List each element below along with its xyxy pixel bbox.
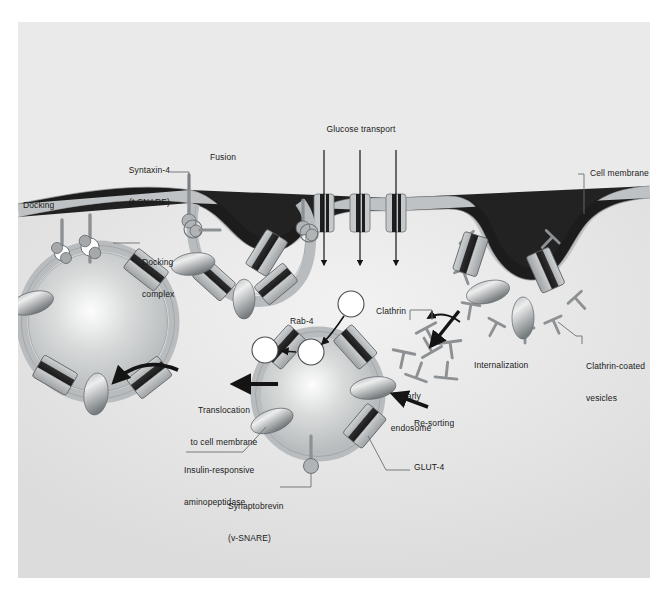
label-glut4: GLUT-4	[414, 462, 444, 473]
label-internalization: Internalization	[474, 360, 528, 371]
label-synaptobrevin-line1: Synaptobrevin	[228, 501, 284, 512]
white-vesicle	[338, 291, 364, 317]
label-syntaxin4-line1: Syntaxin-4	[88, 165, 170, 176]
rab4-arrow-2	[282, 351, 296, 352]
label-irap-line1: Insulin-responsive	[184, 465, 254, 476]
cell-trafficking-diagram	[18, 22, 650, 578]
label-early-endosome: Early endosome	[380, 370, 442, 454]
label-docking-complex: Docking complex	[142, 236, 174, 320]
white-vesicle	[252, 337, 278, 363]
irap-ellipse	[233, 279, 255, 319]
label-docking-complex-line1: Docking	[142, 257, 174, 268]
white-vesicle	[298, 339, 324, 365]
label-glucose-transport: Glucose transport	[290, 124, 432, 135]
label-synaptobrevin-line2: (v-SNARE)	[228, 533, 284, 544]
label-clathrin: Clathrin	[376, 306, 406, 317]
label-early-endosome-line1: Early	[380, 391, 442, 402]
label-clathrin-vesicles-line1: Clathrin-coated	[586, 361, 645, 372]
label-clathrin-vesicles-line2: vesicles	[586, 393, 645, 404]
label-translocation-line1: Translocation	[176, 405, 272, 416]
label-docking-complex-line2: complex	[142, 289, 174, 300]
label-docking: Docking	[23, 200, 54, 211]
label-fusion: Fusion	[210, 152, 236, 163]
irap-ellipse	[512, 297, 534, 339]
label-rab4: Rab-4	[290, 316, 314, 327]
label-syntaxin4-line2: (t-SNARE)	[88, 197, 170, 208]
label-synaptobrevin: Synaptobrevin (v-SNARE)	[228, 480, 284, 564]
label-cell-membrane: Cell membrane	[590, 168, 649, 179]
label-re-sorting: Re-sorting	[414, 418, 454, 429]
label-clathrin-coated-vesicles: Clathrin-coated vesicles	[586, 340, 645, 424]
figure-panel: Docking Docking complex Syntaxin-4 (t-SN…	[18, 22, 650, 578]
label-syntaxin4: Syntaxin-4 (t-SNARE)	[88, 144, 170, 228]
